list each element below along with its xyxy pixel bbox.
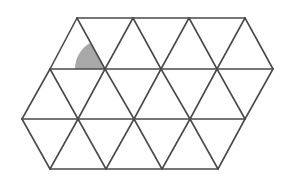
diagonal-line: [190, 69, 217, 119]
diagonal-line: [105, 69, 134, 119]
diagonal-line: [161, 69, 190, 119]
diagonal-line: [50, 18, 77, 69]
diagonal-line: [78, 69, 105, 119]
diagonal-line: [133, 18, 161, 69]
diagonal-line: [162, 119, 190, 169]
diagonal-line: [189, 18, 217, 69]
diagonal-line: [50, 119, 78, 169]
diagonal-line: [106, 119, 134, 169]
diagonal-line: [218, 119, 245, 169]
grid-lines: [22, 18, 273, 169]
diagonal-line: [22, 69, 50, 119]
diagonal-line: [190, 119, 218, 169]
diagonal-line: [217, 18, 245, 69]
diagonal-line: [217, 69, 245, 119]
diagonal-line: [245, 18, 273, 69]
diagonal-line: [105, 18, 133, 69]
diagonal-line: [134, 69, 161, 119]
diagonal-line: [245, 69, 273, 119]
diagonal-line: [134, 119, 162, 169]
shaded-angle-sector: [75, 43, 105, 69]
diagonal-line: [78, 119, 106, 169]
triangle-grid-diagram: [0, 0, 292, 180]
grid-figure: [0, 0, 292, 180]
diagonal-line: [50, 69, 78, 119]
diagonal-line: [161, 18, 189, 69]
diagonal-line: [22, 119, 50, 169]
